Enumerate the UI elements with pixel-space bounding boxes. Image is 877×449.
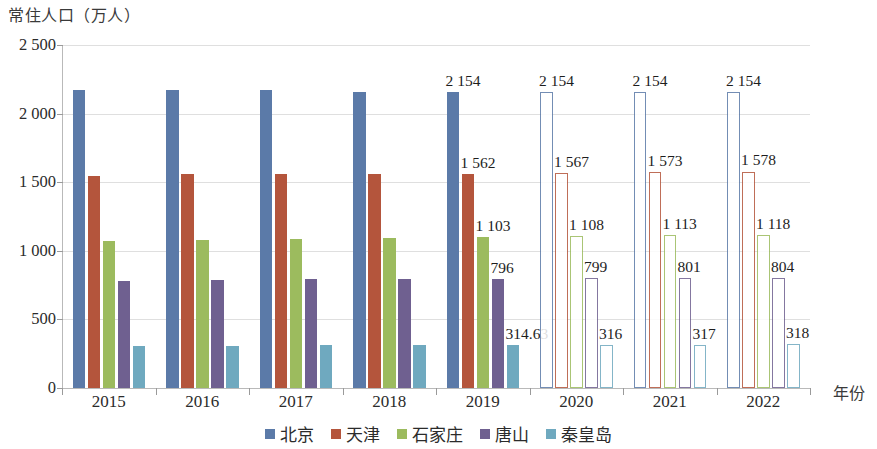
bar-秦皇岛-2015: [133, 346, 146, 388]
legend-swatch-icon: [480, 429, 490, 439]
legend-swatch-icon: [265, 429, 275, 439]
bar-唐山-2020: [585, 278, 598, 388]
bar-value-label: 1 118: [756, 215, 790, 233]
bar-北京-2016: [166, 90, 179, 388]
x-tick-label-2015: 2015: [62, 392, 156, 412]
y-tick-label: 1 000: [0, 241, 56, 261]
bar-北京-2017: [260, 90, 273, 388]
bar-唐山-2022: [772, 278, 785, 388]
bar-北京-2022: [727, 92, 740, 388]
bar-天津-2020: [555, 173, 568, 388]
bar-value-label: 804: [771, 258, 794, 276]
bar-value-label: 316: [599, 325, 622, 343]
bar-唐山-2019: [492, 279, 505, 388]
bar-value-label: 2 154: [446, 72, 481, 90]
bar-value-label: 317: [693, 325, 716, 343]
bar-石家庄-2017: [290, 239, 303, 388]
bar-唐山-2016: [211, 280, 224, 388]
bar-秦皇岛-2022: [787, 344, 800, 388]
bar-唐山-2015: [118, 281, 131, 388]
legend-swatch-icon: [546, 429, 556, 439]
bar-秦皇岛-2019: [507, 345, 520, 388]
bar-天津-2016: [181, 174, 194, 388]
x-axis-title: 年份: [833, 380, 865, 404]
chart-legend: 北京天津石家庄唐山秦皇岛: [0, 421, 877, 446]
legend-item-北京[interactable]: 北京: [265, 421, 314, 446]
x-tick-label-2021: 2021: [623, 392, 717, 412]
bar-石家庄-2022: [757, 235, 770, 388]
bar-天津-2022: [742, 172, 755, 389]
bar-唐山-2021: [679, 278, 692, 388]
bar-唐山-2017: [305, 279, 318, 388]
bar-value-label: 796: [491, 259, 514, 277]
bar-value-label: 1 108: [569, 216, 604, 234]
bar-天津-2019: [462, 174, 475, 388]
bar-value-label: 799: [584, 258, 607, 276]
legend-label: 北京: [280, 421, 314, 446]
legend-item-秦皇岛[interactable]: 秦皇岛: [546, 421, 612, 446]
y-tick-label: 2 500: [0, 35, 56, 55]
bar-石家庄-2020: [570, 236, 583, 388]
bar-秦皇岛-2016: [226, 346, 239, 388]
bar-秦皇岛-2021: [694, 345, 707, 388]
bar-石家庄-2019: [477, 237, 490, 388]
bar-value-label: 2 154: [539, 72, 574, 90]
bar-北京-2021: [634, 92, 647, 388]
bar-天津-2017: [275, 174, 288, 388]
bar-北京-2018: [353, 92, 366, 388]
y-tick-label: 500: [0, 309, 56, 329]
x-tick-label-2016: 2016: [156, 392, 250, 412]
bar-天津-2015: [88, 176, 101, 388]
x-tick-label-2022: 2022: [717, 392, 811, 412]
x-tick-label-2018: 2018: [343, 392, 437, 412]
bar-value-label: 318: [786, 324, 809, 342]
y-axis-title: 常住人口（万人）: [8, 2, 140, 26]
bar-北京-2020: [540, 92, 553, 388]
bar-value-label: 1 573: [648, 152, 683, 170]
bar-石家庄-2018: [383, 238, 396, 388]
x-tick-label-2017: 2017: [249, 392, 343, 412]
bar-石家庄-2021: [664, 235, 677, 388]
legend-label: 石家庄: [412, 421, 463, 446]
legend-item-唐山[interactable]: 唐山: [480, 421, 529, 446]
bar-天津-2021: [649, 172, 662, 388]
bar-value-label: 1 562: [461, 154, 496, 172]
bar-秦皇岛-2018: [413, 345, 426, 388]
bar-value-label: 2 154: [633, 72, 668, 90]
bar-石家庄-2015: [103, 241, 116, 388]
bar-秦皇岛-2020: [600, 345, 613, 388]
x-tick-mark: [810, 388, 811, 395]
bar-value-label: 1 567: [554, 153, 589, 171]
bar-北京-2015: [73, 90, 86, 388]
x-tick-label-2019: 2019: [436, 392, 530, 412]
legend-swatch-icon: [397, 429, 407, 439]
bar-value-label: 1 578: [741, 151, 776, 169]
legend-swatch-icon: [331, 429, 341, 439]
legend-item-石家庄[interactable]: 石家庄: [397, 421, 463, 446]
bar-value-label: 1 103: [476, 217, 511, 235]
legend-label: 天津: [346, 421, 380, 446]
legend-label: 秦皇岛: [561, 421, 612, 446]
bar-石家庄-2016: [196, 240, 209, 388]
x-tick-label-2020: 2020: [530, 392, 624, 412]
bar-北京-2019: [447, 92, 460, 388]
y-tick-label: 1 500: [0, 172, 56, 192]
bar-value-label: 801: [678, 258, 701, 276]
bar-秦皇岛-2017: [320, 345, 333, 388]
legend-item-天津[interactable]: 天津: [331, 421, 380, 446]
plot-area: 2 1541 5621 103796314.632 1541 5671 1087…: [62, 45, 810, 388]
bar-value-label: 1 113: [663, 215, 697, 233]
bar-天津-2018: [368, 174, 381, 388]
y-tick-label: 0: [0, 378, 56, 398]
bar-唐山-2018: [398, 279, 411, 388]
bar-value-label: 2 154: [726, 72, 761, 90]
y-tick-label: 2 000: [0, 104, 56, 124]
legend-label: 唐山: [495, 421, 529, 446]
population-bar-chart: 常住人口（万人） 年份 05001 0001 5002 0002 500 201…: [0, 0, 877, 449]
